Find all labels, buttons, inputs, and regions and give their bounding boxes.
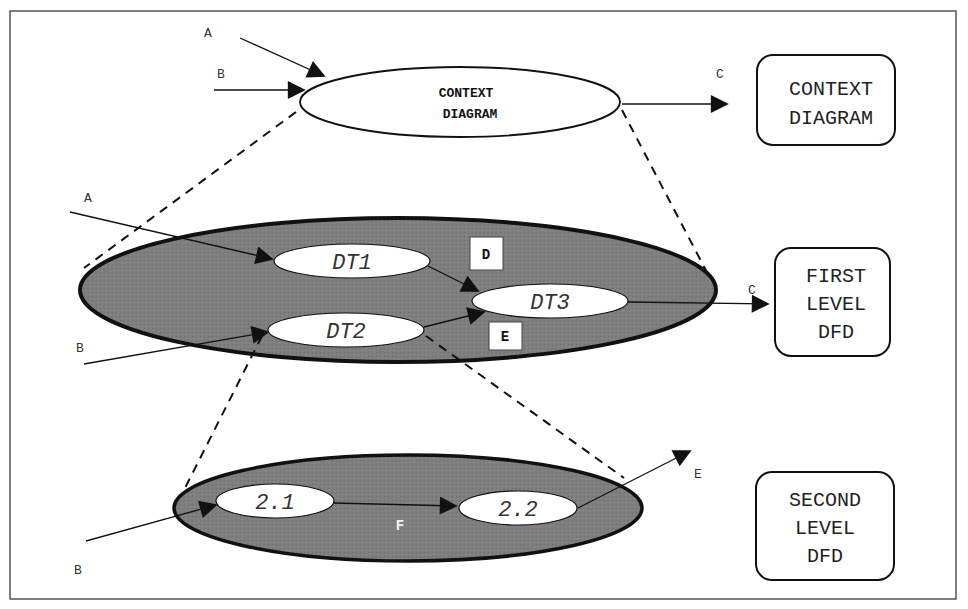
process-dt1-label: DT1: [332, 251, 372, 276]
side-label-context-1: CONTEXT: [789, 78, 873, 101]
flow-label-b-l2: B: [74, 563, 82, 578]
side-label-second-2: LEVEL: [795, 517, 855, 540]
side-label-second-1: SECOND: [789, 489, 861, 512]
flow-label-a-l1: A: [84, 191, 92, 206]
context-process: [300, 67, 620, 137]
dfd-diagram: A B CONTEXT DIAGRAM C CONTEXT DIAGRAM A …: [0, 0, 968, 609]
context-process-label-1: CONTEXT: [439, 86, 494, 101]
side-label-context-2: DIAGRAM: [789, 107, 873, 130]
process-2-2-label: 2.2: [498, 498, 538, 523]
flow-label-c-l1: C: [748, 283, 756, 298]
process-2-1-label: 2.1: [255, 491, 295, 516]
side-label-second-3: DFD: [807, 545, 843, 568]
side-label-first-2: LEVEL: [806, 293, 866, 316]
process-dt2-label: DT2: [326, 320, 366, 345]
flow-label-c: C: [716, 67, 724, 82]
flow-label-e-l2: E: [694, 467, 702, 482]
flow-label-a: A: [204, 26, 212, 41]
side-label-first-1: FIRST: [806, 265, 866, 288]
flow-label-b-l1: B: [76, 341, 84, 356]
flow-label-b: B: [217, 67, 225, 82]
data-store-d-label: D: [482, 247, 490, 263]
data-store-e-label: E: [501, 329, 509, 345]
context-process-label-2: DIAGRAM: [443, 107, 498, 122]
flow-label-f: F: [396, 518, 404, 534]
process-dt3-label: DT3: [530, 291, 570, 316]
side-label-first-3: DFD: [818, 321, 854, 344]
